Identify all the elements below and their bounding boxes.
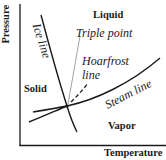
triple-point-marker xyxy=(65,104,68,107)
phase-diagram: Pressure Temperature Liquid Solid Vapor … xyxy=(0,0,166,160)
sublimation-curve xyxy=(29,106,67,122)
x-axis-label: Temperature xyxy=(104,148,162,159)
hoarfrost-label-line2: line xyxy=(82,69,100,81)
triple-point-label: Triple point xyxy=(76,27,132,39)
region-solid-label: Solid xyxy=(24,84,47,95)
hoarfrost-line-dashed xyxy=(71,83,88,102)
hoarfrost-label-line1: Hoarfrost xyxy=(82,55,129,67)
region-vapor-label: Vapor xyxy=(108,121,136,132)
y-axis-label: Pressure xyxy=(1,5,12,44)
region-liquid-label: Liquid xyxy=(93,10,123,21)
triple-point-pointer xyxy=(68,36,80,104)
